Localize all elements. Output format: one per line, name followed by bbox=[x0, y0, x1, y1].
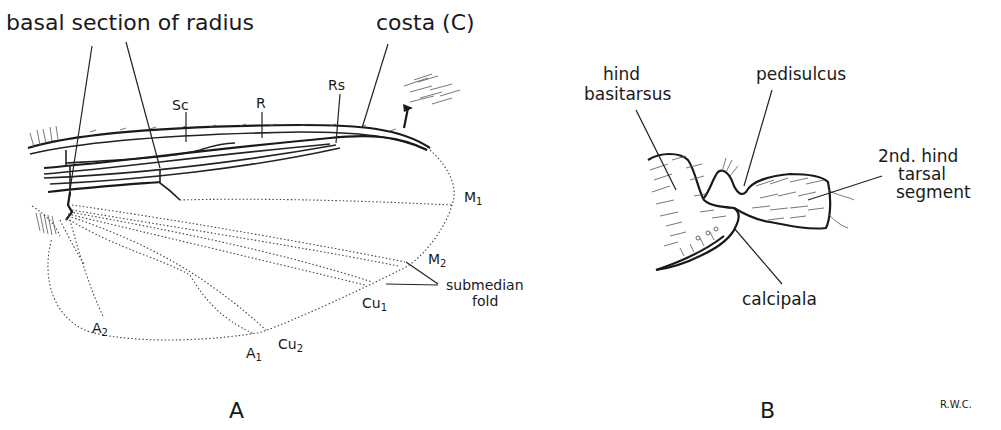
label-a2: A2 bbox=[92, 320, 108, 338]
artist-credit: R.W.C. bbox=[940, 399, 972, 410]
label-a1: A1 bbox=[246, 345, 262, 363]
panel-label-a: A bbox=[229, 398, 244, 423]
label-pedisulcus: pedisulcus bbox=[756, 64, 846, 84]
label-hind: hind bbox=[603, 64, 640, 84]
label-basal-section-of-radius: basal section of radius bbox=[6, 10, 254, 35]
label-cu2: Cu2 bbox=[278, 336, 303, 354]
label-tarsal: tarsal bbox=[898, 164, 946, 184]
label-calcipala: calcipala bbox=[742, 289, 817, 309]
label-rs: Rs bbox=[328, 77, 345, 93]
panel-label-b: B bbox=[760, 398, 775, 423]
tarsus-drawing bbox=[648, 154, 854, 270]
label-fold: fold bbox=[472, 293, 498, 309]
label-basitarsus: basitarsus bbox=[584, 84, 671, 104]
wing-labels: basal section of radius costa (C) Sc R R… bbox=[6, 10, 524, 423]
label-r: R bbox=[256, 95, 266, 111]
label-sc: Sc bbox=[172, 97, 189, 113]
figure-diagram: basal section of radius costa (C) Sc R R… bbox=[0, 0, 1001, 430]
label-2nd-hind: 2nd. hind bbox=[878, 146, 958, 166]
label-cu1: Cu1 bbox=[362, 295, 387, 313]
tarsus-labels: hind basitarsus pedisulcus 2nd. hind tar… bbox=[584, 64, 972, 423]
tarsus-leader-lines bbox=[636, 90, 882, 284]
label-m2: M2 bbox=[428, 251, 446, 269]
label-segment: segment bbox=[896, 182, 971, 202]
label-costa: costa (C) bbox=[376, 10, 475, 35]
label-m1: M1 bbox=[464, 189, 482, 207]
label-submedian: submedian bbox=[446, 277, 524, 293]
wing-drawing bbox=[28, 74, 460, 340]
